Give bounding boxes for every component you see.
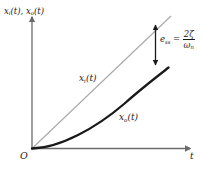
input-curve-label: xi(t) bbox=[79, 74, 97, 83]
plot-area bbox=[0, 0, 202, 171]
y-axis-label-input: xi(t) bbox=[4, 6, 21, 16]
error-fraction: 2ζ ωn bbox=[183, 30, 195, 49]
ramp-response-figure: xi(t), xo(t) t O xi(t) xo(t) ess = 2ζ ωn bbox=[0, 0, 202, 171]
output-response-curve bbox=[32, 68, 169, 149]
error-equals-sign: = bbox=[173, 35, 180, 44]
y-axis-label-output: xo(t) bbox=[26, 6, 44, 16]
error-symbol: ess bbox=[160, 35, 170, 44]
output-curve-label: xo(t) bbox=[119, 113, 138, 122]
error-numerator: 2ζ bbox=[183, 30, 195, 39]
origin-label: O bbox=[20, 151, 28, 161]
x-axis-label: t bbox=[190, 152, 194, 161]
y-axis-label: xi(t), xo(t) bbox=[4, 7, 44, 16]
steady-state-error-annotation: ess = 2ζ ωn bbox=[160, 30, 195, 49]
error-denominator: ωn bbox=[183, 40, 195, 49]
